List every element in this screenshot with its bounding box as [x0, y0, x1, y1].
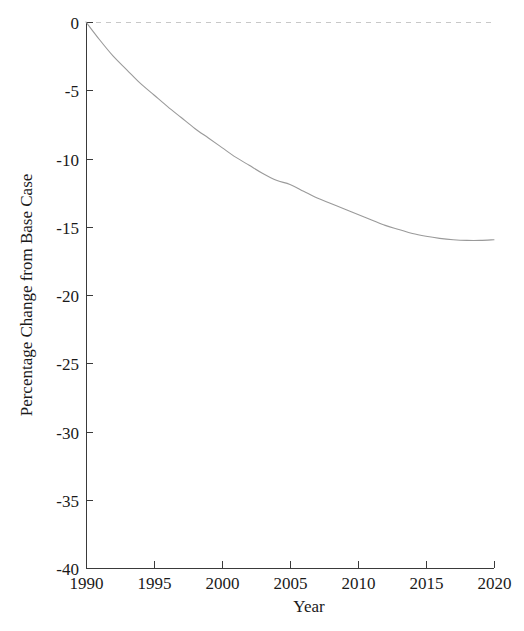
- x-axis-tick-labels: 1990199520002005201020152020: [70, 574, 512, 593]
- y-tick-label: -25: [56, 355, 79, 374]
- y-tick-label: -5: [65, 82, 79, 101]
- x-tick-label: 2015: [410, 574, 444, 593]
- y-tick-label: -10: [56, 151, 79, 170]
- x-tick-label: 2000: [206, 574, 240, 593]
- x-axis-title: Year: [293, 597, 325, 616]
- x-tick-label: 2010: [342, 574, 376, 593]
- x-tick-label: 2005: [274, 574, 308, 593]
- y-tick-label: 0: [71, 14, 80, 33]
- x-tick-label: 1995: [138, 574, 172, 593]
- x-tick-label: 2020: [478, 574, 512, 593]
- plot-area-background: [86, 22, 494, 568]
- x-tick-label: 1990: [70, 574, 104, 593]
- y-axis-tick-labels: 0-5-10-15-20-25-30-35-40: [56, 14, 79, 579]
- y-tick-label: -35: [56, 492, 79, 511]
- y-tick-label: -20: [56, 287, 79, 306]
- y-axis-title: Percentage Change from Base Case: [17, 174, 36, 417]
- y-tick-label: -30: [56, 424, 79, 443]
- line-chart-canvas: 0-5-10-15-20-25-30-35-40 199019952000200…: [0, 0, 524, 631]
- y-tick-label: -15: [56, 219, 79, 238]
- chart-figure: 0-5-10-15-20-25-30-35-40 199019952000200…: [0, 0, 524, 631]
